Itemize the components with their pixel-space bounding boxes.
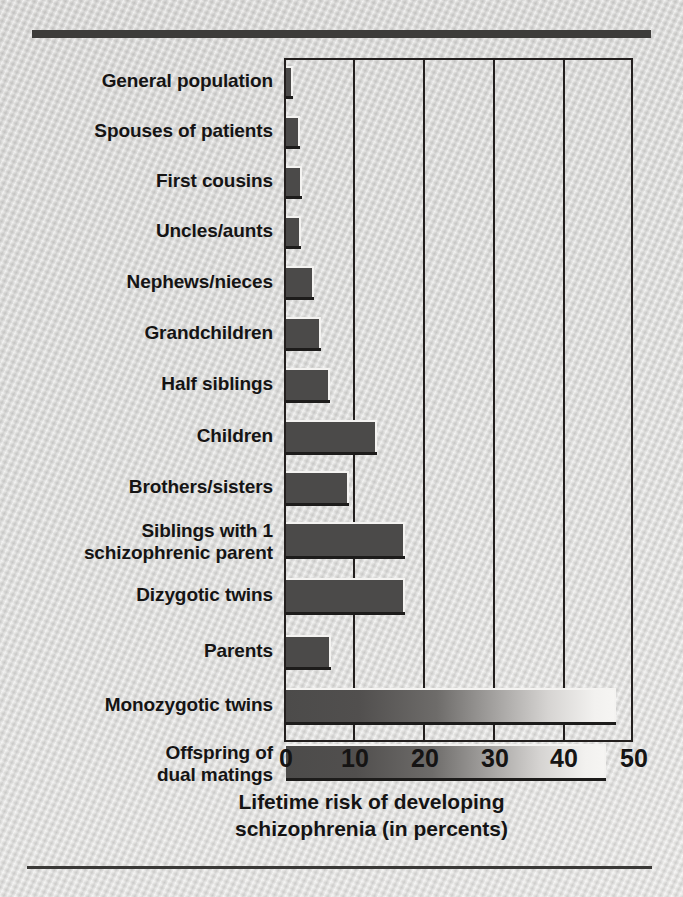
bar-children [286, 420, 377, 452]
category-label: Spouses of patients [13, 120, 273, 142]
bar-container [286, 420, 377, 452]
bar-siblings-with-1-schizophrenic-parent [286, 522, 405, 556]
chart-figure: General population Spouses of patients F… [0, 0, 683, 897]
bar-container [286, 635, 331, 667]
bar-row: Spouses of patients [0, 116, 683, 146]
bar-row: Grandchildren [0, 317, 683, 348]
bar-container [286, 522, 405, 556]
x-tick-40: 40 [541, 744, 587, 773]
bar-half-siblings [286, 368, 330, 400]
bar-grandchildren [286, 317, 321, 348]
bar-row: Half siblings [0, 368, 683, 400]
bar-uncles-aunts [286, 216, 301, 246]
bar-spouses-of-patients [286, 116, 300, 146]
bar-row: Nephews/nieces [0, 266, 683, 297]
x-tick-0: 0 [263, 744, 309, 773]
bar-container [286, 116, 300, 146]
bar-general-population [286, 66, 293, 96]
bar-container [286, 317, 321, 348]
category-label: Nephews/nieces [13, 271, 273, 293]
category-label: Parents [13, 640, 273, 662]
category-label: Siblings with 1 schizophrenic parent [13, 520, 273, 564]
bottom-divider-rule [27, 866, 652, 869]
bar-row: First cousins [0, 166, 683, 196]
category-label: Half siblings [13, 373, 273, 395]
bar-container [286, 66, 293, 96]
bar-container [286, 166, 302, 196]
bar-row: Monozygotic twins [0, 688, 683, 722]
bar-container [286, 368, 330, 400]
bar-rows: General population Spouses of patients F… [0, 58, 683, 742]
bar-row: Parents [0, 635, 683, 667]
x-axis-tick-labels: 0 10 20 30 40 50 [0, 744, 683, 778]
category-label: Uncles/aunts [13, 220, 273, 242]
bar-row: Brothers/sisters [0, 471, 683, 503]
bar-parents [286, 635, 331, 667]
bar-row: Siblings with 1 schizophrenic parent [0, 522, 683, 556]
category-label: Children [13, 425, 273, 447]
category-label: First cousins [13, 170, 273, 192]
x-tick-20: 20 [402, 744, 448, 773]
category-label: Monozygotic twins [13, 694, 273, 716]
category-label: Grandchildren [13, 322, 273, 344]
bar-row: Dizygotic twins [0, 578, 683, 612]
x-tick-50: 50 [611, 744, 657, 773]
bar-row: Uncles/aunts [0, 216, 683, 246]
bar-nephews-nieces [286, 266, 314, 297]
x-axis-title: Lifetime risk of developing schizophreni… [0, 788, 683, 842]
top-divider-rule [32, 30, 651, 38]
bar-container [286, 578, 405, 612]
bar-dizygotic-twins [286, 578, 405, 612]
bar-container [286, 688, 616, 722]
category-label: Dizygotic twins [13, 584, 273, 606]
bar-container [286, 266, 314, 297]
bar-monozygotic-twins [286, 688, 616, 722]
bar-row: General population [0, 66, 683, 96]
bar-container [286, 216, 301, 246]
category-label: General population [13, 70, 273, 92]
bar-first-cousins [286, 166, 302, 196]
bar-container [286, 471, 349, 503]
bar-row: Children [0, 420, 683, 452]
bar-brothers-sisters [286, 471, 349, 503]
x-tick-30: 30 [472, 744, 518, 773]
category-label: Brothers/sisters [13, 476, 273, 498]
x-tick-10: 10 [332, 744, 378, 773]
